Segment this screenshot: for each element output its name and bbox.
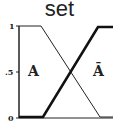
- tick-1: 1: [9, 21, 15, 31]
- tick-0: 0: [8, 113, 14, 123]
- label-a: A: [27, 63, 40, 79]
- tick-half: .5: [5, 67, 13, 77]
- label-a-bar: Ā: [92, 61, 105, 79]
- membership-chart: 1 .5 0 A Ā: [0, 0, 119, 128]
